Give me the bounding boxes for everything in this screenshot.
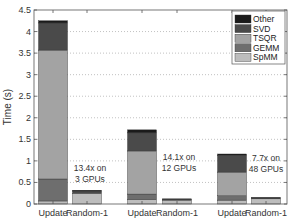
speedup-annotation-gpus: 12 GPUs [162, 163, 197, 173]
y-tick-label: 4.5 [18, 5, 31, 15]
bar-segment-other [39, 21, 68, 23]
legend-swatch-other [235, 15, 251, 23]
x-tick-label: Update [127, 208, 156, 218]
bar-segment-gemm [218, 196, 247, 200]
legend-swatch-svd [235, 25, 251, 33]
y-tick-label: 2.5 [18, 91, 31, 101]
bar-segment-gemm [39, 179, 68, 201]
bar-segment-tsqr [128, 151, 157, 194]
bar-segment-other [73, 190, 102, 191]
legend-label-other: Other [253, 14, 274, 24]
bar-segment-other [128, 130, 157, 133]
legend-label-gemm: GEMM [253, 43, 279, 53]
speedup-annotation: 7.7x on [252, 153, 280, 163]
speedup-annotations: 13.4x on3 GPUs14.1x on12 GPUs7.7x on48 G… [74, 152, 284, 184]
bar-segment-svd [39, 23, 68, 50]
legend-swatch-spmm [235, 53, 251, 61]
legend-swatch-gemm [235, 44, 251, 52]
y-tick-label: 1 [26, 156, 31, 166]
legend-label-svd: SVD [253, 24, 270, 34]
x-tick-label: Update [217, 208, 246, 218]
y-axis-label: Time (s) [2, 89, 13, 125]
x-tick-label: Update [38, 208, 67, 218]
y-tick-label: 0.5 [18, 177, 31, 187]
y-tick-label: 2 [26, 113, 31, 123]
bar-segment-svd [128, 133, 157, 151]
y-tick-label: 0 [26, 199, 31, 209]
bar-update [218, 154, 247, 204]
bar-update [128, 130, 157, 204]
x-tick-label: Random-1 [66, 208, 108, 218]
x-tick-label: Random-1 [245, 208, 287, 218]
legend-label-tsqr: TSQR [253, 33, 277, 43]
y-tick-label: 3 [26, 70, 31, 80]
y-tick-label: 1.5 [18, 134, 31, 144]
bar-segment-other [218, 154, 247, 155]
speedup-annotation: 13.4x on [74, 163, 107, 173]
x-tick-label: Random-1 [156, 208, 198, 218]
legend-label-spmm: SpMM [253, 52, 278, 62]
y-tick-label: 3.5 [18, 48, 31, 58]
bar-segment-tsqr [39, 50, 68, 179]
speedup-annotation-gpus: 3 GPUs [75, 174, 105, 184]
stacked-bar-chart: 00.511.522.533.544.5 UpdateRandom-1Updat… [0, 0, 291, 223]
bar-update [39, 21, 68, 204]
bar-segment-gemm [128, 194, 157, 200]
legend-swatch-tsqr [235, 34, 251, 42]
bar-segment-tsqr [218, 172, 247, 196]
bar-segment-svd [218, 155, 247, 172]
y-tick-label: 4 [26, 27, 31, 37]
speedup-annotation: 14.1x on [163, 152, 196, 162]
speedup-annotation-gpus: 48 GPUs [249, 164, 284, 174]
bar-segment-svd [73, 191, 102, 193]
legend: OtherSVDTSQRGEMMSpMM [232, 11, 285, 64]
